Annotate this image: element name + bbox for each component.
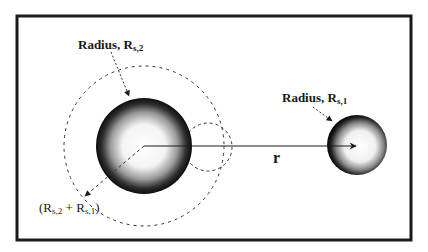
sum-radius-label: (Rs,2 + Rs,1) xyxy=(39,201,100,214)
sum-subscript-2: s,1 xyxy=(85,206,95,216)
small-sphere xyxy=(327,115,387,175)
radius-small-label-text: Radius, R xyxy=(282,90,337,105)
distance-label: r xyxy=(273,150,280,166)
radius-small-leader xyxy=(313,107,332,121)
sum-close: ) xyxy=(95,200,99,215)
sum-plus: + R xyxy=(62,200,85,215)
radius-small-label: Radius, Rs,1 xyxy=(282,91,347,104)
radius-large-label-text: Radius, R xyxy=(78,37,133,52)
sum-open: (R xyxy=(39,200,52,215)
radius-small-label-subscript: s,1 xyxy=(337,96,347,106)
radius-large-label: Radius, Rs,2 xyxy=(78,38,143,51)
radius-large-leader xyxy=(111,52,129,96)
radius-large-label-subscript: s,2 xyxy=(133,43,143,53)
sum-subscript-1: s,2 xyxy=(52,206,62,216)
